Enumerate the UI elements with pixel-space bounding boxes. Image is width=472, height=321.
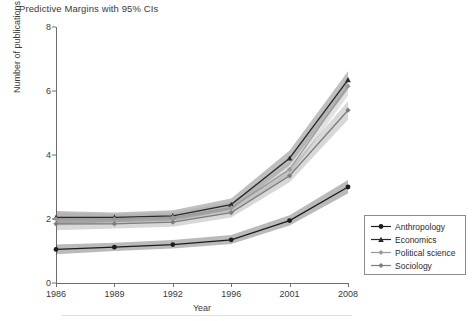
x-tick-label: 2001 (280, 289, 300, 299)
y-tick-label: 8 (46, 22, 51, 32)
x-tick-mark (114, 283, 115, 287)
legend-item-label: Anthropology (392, 222, 445, 232)
footer-divider (62, 315, 352, 316)
data-point-marker (112, 245, 117, 250)
x-tick-label: 1989 (104, 289, 124, 299)
x-tick-label: 2008 (338, 289, 358, 299)
data-point-marker (229, 237, 234, 242)
legend-item-label: Economics (392, 235, 437, 245)
x-tick-label: 1986 (46, 289, 66, 299)
y-tick-label: 2 (46, 214, 51, 224)
diamond-marker-icon (370, 260, 392, 271)
y-tick-label: 6 (46, 86, 51, 96)
series-layer (56, 27, 348, 283)
plot-area: 02468 198619891992199620012008 (56, 27, 348, 283)
y-tick-label: 0 (46, 278, 51, 288)
x-axis-label: Year (56, 303, 348, 313)
x-tick-label: 1992 (163, 289, 183, 299)
legend: AnthropologyEconomicsPolitical scienceSo… (364, 215, 466, 275)
y-axis-label-wrap: Number of publications per scholar per p… (14, 33, 28, 263)
x-tick-mark (290, 283, 291, 287)
circle-marker-icon (370, 221, 392, 232)
data-point-marker (170, 242, 175, 247)
y-axis-label: Number of publications per scholar per p… (12, 0, 22, 93)
data-point-marker (54, 247, 59, 252)
x-axis-line (56, 283, 348, 284)
legend-item-label: Sociology (392, 261, 432, 271)
chart-root: Predictive Margins with 95% CIs Number o… (0, 0, 472, 321)
legend-item-economics[interactable]: Economics (370, 233, 460, 246)
x-tick-label: 1996 (221, 289, 241, 299)
x-tick-mark (173, 283, 174, 287)
diamond-marker-icon (370, 247, 392, 258)
legend-item-political-science[interactable]: Political science (370, 246, 460, 259)
x-tick-mark (231, 283, 232, 287)
legend-item-anthropology[interactable]: Anthropology (370, 220, 460, 233)
y-tick-label: 4 (46, 150, 51, 160)
triangle-marker-icon (370, 234, 392, 245)
ci-band-political-science (56, 77, 348, 225)
data-point-marker (287, 218, 292, 223)
legend-item-label: Political science (392, 248, 455, 258)
x-tick-mark (348, 283, 349, 287)
chart-title: Predictive Margins with 95% CIs (19, 3, 158, 14)
data-point-marker (346, 185, 351, 190)
legend-item-sociology[interactable]: Sociology (370, 259, 460, 272)
x-tick-mark (56, 283, 57, 287)
